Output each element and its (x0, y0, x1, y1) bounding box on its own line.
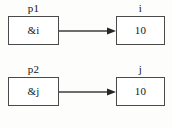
pointer-variable-label: p2 (8, 64, 59, 75)
target-variable-label: j (116, 64, 165, 75)
arrow-right-icon (59, 27, 116, 35)
pointer-value: &j (27, 86, 39, 97)
arrow-right-icon (59, 88, 116, 96)
value-box[interactable]: 10 (116, 77, 165, 106)
target-value: 10 (135, 25, 146, 36)
pointer-diagram: p1 &i i 10 p2 &j j 10 (0, 0, 172, 128)
pointer-value: &i (27, 25, 39, 36)
value-box[interactable]: 10 (116, 16, 165, 45)
target-value: 10 (135, 86, 146, 97)
pointer-box[interactable]: &j (8, 77, 59, 106)
pointer-box[interactable]: &i (8, 16, 59, 45)
target-variable-label: i (116, 3, 165, 14)
diagram-row: p1 &i i 10 (0, 0, 172, 62)
pointer-variable-label: p1 (8, 3, 59, 14)
diagram-row: p2 &j j 10 (0, 61, 172, 123)
